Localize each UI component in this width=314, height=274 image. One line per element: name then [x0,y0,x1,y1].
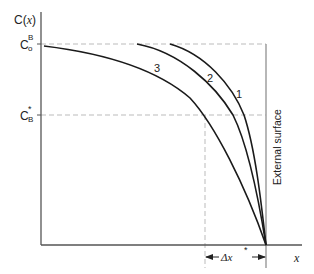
mid-level-label: C * B [20,104,33,124]
svg-text:*: * [244,245,248,255]
curve-label-3: 3 [154,62,160,74]
delta-x-label: Δx * [220,245,248,263]
top-level-label: C B o [20,33,33,53]
x-axis-label: x [293,251,300,265]
external-surface-label: External surface [271,109,283,185]
svg-text:B: B [28,115,33,124]
curve-1 [170,44,266,245]
svg-text:o: o [28,44,33,53]
y-axis-title: C(x) [14,13,36,27]
curve-label-2: 2 [207,72,213,84]
svg-text:*: * [28,104,32,114]
svg-text:B: B [28,33,33,42]
curve-label-1: 1 [236,88,242,100]
concentration-profile-diagram: 3 2 1 C(x) C B o C * B x Δx * External s… [0,0,314,274]
curve-3 [44,46,266,245]
svg-text:Δx: Δx [220,251,232,263]
curve-2 [137,44,266,245]
